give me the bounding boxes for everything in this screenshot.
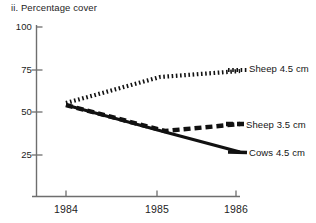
series-line-sheep-4-5-cm — [66, 71, 240, 103]
plot-area — [0, 0, 316, 223]
series-line-cows-4-5-cm — [66, 105, 240, 152]
legend-swatch-cows-4-5-cm — [228, 152, 247, 153]
chart-figure: ii. Percentage cover 100 75 50 25 1984 1… — [0, 0, 316, 223]
